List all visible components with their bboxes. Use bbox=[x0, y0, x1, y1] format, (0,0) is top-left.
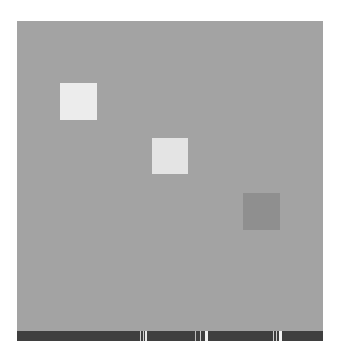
bar-mark bbox=[273, 331, 274, 341]
bar-mark bbox=[145, 331, 147, 341]
bar-mark bbox=[279, 331, 282, 341]
bar-mark bbox=[195, 331, 196, 341]
square-3 bbox=[243, 193, 280, 230]
bar-mark bbox=[143, 331, 144, 341]
bar-mark bbox=[200, 331, 201, 341]
square-2 bbox=[152, 138, 188, 174]
bar-mark bbox=[276, 331, 277, 341]
square-1 bbox=[60, 83, 97, 120]
bar-mark bbox=[140, 331, 141, 341]
bar-mark bbox=[205, 331, 208, 341]
canvas bbox=[17, 21, 323, 331]
bottom-bar bbox=[17, 331, 323, 341]
